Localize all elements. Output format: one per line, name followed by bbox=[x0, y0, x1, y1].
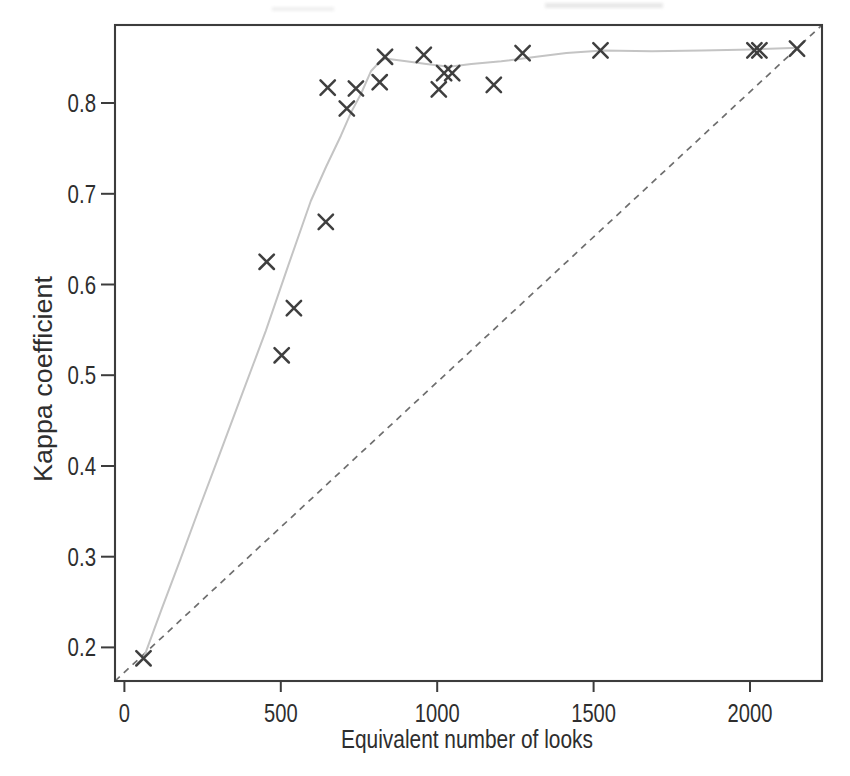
x-tick-label: 2000 bbox=[728, 699, 773, 727]
data-point-marker bbox=[373, 75, 387, 89]
data-point-marker bbox=[437, 66, 451, 80]
x-tick-label: 1000 bbox=[415, 699, 460, 727]
data-point-marker bbox=[260, 255, 274, 269]
x-tick-label: 500 bbox=[264, 699, 298, 727]
data-point-marker bbox=[275, 348, 289, 362]
data-point-marker bbox=[136, 651, 150, 665]
x-tick-label: 0 bbox=[119, 699, 130, 727]
y-tick-label: 0.4 bbox=[68, 452, 96, 480]
data-point-marker bbox=[287, 301, 301, 315]
scan-smudge bbox=[545, 3, 663, 8]
chart-canvas: 0500100015002000 0.20.30.40.50.60.70.8 E… bbox=[0, 0, 850, 776]
x-axis-label: Equivalent number of looks bbox=[341, 725, 593, 753]
data-point-marker bbox=[340, 101, 354, 115]
data-point-marker bbox=[417, 48, 431, 62]
y-tick-label: 0.2 bbox=[68, 633, 96, 661]
data-point-marker bbox=[487, 78, 501, 92]
data-point-marker bbox=[321, 80, 335, 94]
y-tick-label: 0.6 bbox=[68, 271, 96, 299]
data-point-marker bbox=[432, 82, 446, 96]
y-axis-label: Kappa coefficient bbox=[29, 276, 57, 482]
x-tick-label: 1500 bbox=[571, 699, 616, 727]
y-tick-label: 0.8 bbox=[68, 89, 96, 117]
y-axis: 0.20.30.40.50.60.70.8 bbox=[68, 89, 115, 661]
y-tick-label: 0.5 bbox=[68, 361, 96, 389]
scatter-points bbox=[136, 41, 804, 665]
x-axis: 0500100015002000 bbox=[119, 681, 773, 727]
scan-artifacts bbox=[272, 3, 663, 11]
y-tick-label: 0.7 bbox=[68, 180, 96, 208]
kappa-vs-looks-chart: 0500100015002000 0.20.30.40.50.60.70.8 E… bbox=[0, 0, 850, 776]
scan-smudge bbox=[272, 7, 334, 11]
data-point-marker bbox=[349, 81, 363, 95]
data-point-marker bbox=[378, 50, 392, 64]
smooth-fit-line bbox=[144, 48, 800, 659]
diagonal-reference-line bbox=[115, 25, 822, 681]
data-point-marker bbox=[445, 66, 459, 80]
data-point-marker bbox=[319, 215, 333, 229]
y-tick-label: 0.3 bbox=[68, 543, 96, 571]
